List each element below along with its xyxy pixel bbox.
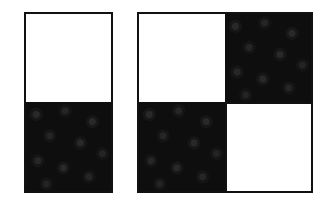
- right-panel-bottom-left-dark-cell: [139, 102, 225, 191]
- right-panel-bottom-right-white-cell: [225, 102, 311, 191]
- left-panel-top-white-cell: [26, 14, 111, 102]
- right-panel-top-left-white-cell: [139, 14, 225, 102]
- left-panel-bottom-dark-cell: [26, 102, 111, 191]
- right-panel: [137, 12, 313, 193]
- left-panel: [24, 12, 113, 193]
- right-panel-top-right-dark-cell: [225, 14, 311, 102]
